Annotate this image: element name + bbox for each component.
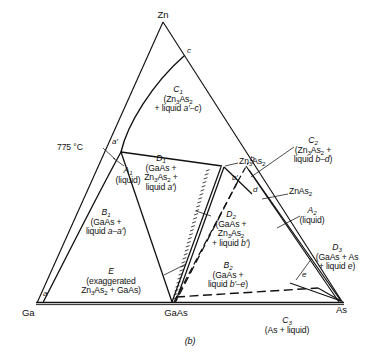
point-label-a-prime: a′ (112, 138, 118, 147)
region-E: E (exaggeratedZn3As2 + GaAs) (81, 267, 141, 296)
region-A1-desc: (liquid) (116, 176, 141, 186)
region-D1-desc: (GaAs +Zn3As2 +liquid a′) (144, 164, 178, 193)
vertex-label-as: As (336, 305, 347, 316)
vertex-label-gaas: GaAs (164, 308, 187, 319)
point-label-a: a (43, 290, 47, 299)
region-C1-desc: (Zn3As2+ liquid a′–c) (155, 95, 202, 114)
region-E-desc: (exaggeratedZn3As2 + GaAs) (81, 277, 141, 296)
lines-converging-as-vertex (290, 283, 341, 301)
region-D3-desc: (GaAs + As+ liquid e) (316, 253, 359, 272)
point-label-c: c (187, 47, 191, 56)
figure-canvas: Zn Ga GaAs As Zn3As2 ZnAs2 775 °C a a′ b… (0, 0, 386, 360)
region-B1: B1 (GaAs +liquid a–a′) (86, 208, 126, 237)
point-label-b-prime: b′ (232, 174, 238, 183)
baseline-ga-as (36, 303, 344, 305)
region-B2: B2 (GaAs +liquid b′–e) (208, 261, 248, 290)
point-label-d: d (253, 186, 257, 195)
temperature-label: 775 °C (57, 143, 83, 153)
region-C3: C3 (As + liquid) (265, 316, 309, 335)
ternary-phase-diagram-svg (0, 0, 386, 360)
figure-caption: (b) (185, 336, 196, 346)
region-A2-desc: (liquid) (300, 216, 325, 226)
region-C2-desc: (Zn3As2 +liquid b–d) (294, 146, 333, 165)
region-C2: C2 (Zn3As2 +liquid b–d) (294, 136, 333, 165)
region-B1-desc: (GaAs +liquid a–a′) (86, 218, 126, 237)
compound-label-znas2: ZnAs2 (289, 187, 312, 197)
region-D2-desc: (GaAs +Zn3As2+ liquid b′) (212, 220, 250, 249)
region-C1: C1 (Zn3As2+ liquid a′–c) (155, 85, 202, 114)
region-B2-desc: (GaAs +liquid b′–e) (208, 271, 248, 290)
point-label-e: e (302, 271, 306, 280)
vertex-label-zn: Zn (158, 10, 169, 21)
region-C3-desc: (As + liquid) (265, 326, 309, 336)
region-A2: A2 (liquid) (300, 206, 325, 225)
region-A1: A1 (liquid) (116, 166, 141, 185)
point-label-b: b (250, 155, 254, 164)
region-C1-id: C1 (155, 85, 202, 95)
vertex-label-ga: Ga (22, 308, 34, 319)
line-zn3as2-to-d (224, 167, 252, 194)
region-D1: D1 (GaAs +Zn3As2 +liquid a′) (144, 154, 178, 193)
region-D3: D3 (GaAs + As+ liquid e) (316, 243, 359, 272)
region-D2: D2 (GaAs +Zn3As2+ liquid b′) (212, 210, 250, 249)
